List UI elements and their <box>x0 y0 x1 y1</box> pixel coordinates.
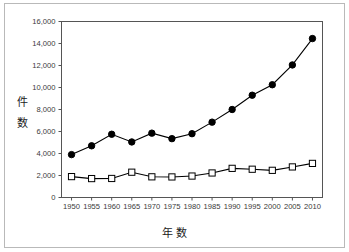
x-axis-ticks: 1950195519601965197019751980198519901995… <box>63 198 321 212</box>
data-point-marker <box>169 174 175 180</box>
data-point-marker <box>108 131 114 137</box>
data-point-marker <box>189 173 195 179</box>
y-tick-label: 12,000 <box>32 61 55 70</box>
data-point-marker <box>169 135 175 141</box>
data-point-marker <box>149 174 155 180</box>
data-point-marker <box>309 35 315 41</box>
y-axis-title-char-2: 数 <box>14 113 30 134</box>
y-tick-label: 4,000 <box>36 149 55 158</box>
data-point-marker <box>289 164 295 170</box>
data-point-marker <box>249 166 255 172</box>
data-point-marker <box>209 170 215 176</box>
data-point-marker <box>149 130 155 136</box>
data-point-marker <box>289 62 295 68</box>
y-axis-title-char-1: 件 <box>14 92 30 113</box>
y-tick-label: 6,000 <box>36 127 55 136</box>
data-point-marker <box>309 160 315 166</box>
data-point-marker <box>189 131 195 137</box>
data-point-marker <box>269 167 275 173</box>
plot-frame <box>62 22 323 198</box>
data-point-marker <box>68 174 74 180</box>
data-point-marker <box>68 151 74 157</box>
y-tick-label: 2,000 <box>36 171 55 180</box>
data-point-marker <box>88 143 94 149</box>
data-point-marker <box>89 175 95 181</box>
x-tick-label: 1995 <box>244 202 261 211</box>
y-tick-label: 10,000 <box>32 83 55 92</box>
data-point-marker <box>229 106 235 112</box>
x-tick-label: 1975 <box>163 202 180 211</box>
x-tick-label: 1950 <box>63 202 80 211</box>
data-point-marker <box>249 92 255 98</box>
y-axis-title: 件 数 <box>14 92 30 134</box>
data-point-marker <box>109 175 115 181</box>
x-tick-label: 1990 <box>224 202 241 211</box>
x-tick-label: 1960 <box>103 202 120 211</box>
x-tick-label: 2000 <box>264 202 281 211</box>
x-tick-label: 1965 <box>123 202 140 211</box>
x-tick-label: 1955 <box>83 202 100 211</box>
y-tick-label: 14,000 <box>32 39 55 48</box>
y-tick-label: 16,000 <box>32 17 55 26</box>
x-axis-title-text: 年 数 <box>162 224 187 240</box>
y-tick-label: 0 <box>51 193 55 202</box>
data-point-marker <box>269 82 275 88</box>
chart-svg: 02,0004,0006,0008,00010,00012,00014,0001… <box>0 0 349 252</box>
x-tick-label: 1980 <box>184 202 201 211</box>
data-point-marker <box>229 165 235 171</box>
x-tick-label: 1970 <box>143 202 160 211</box>
y-axis-ticks: 02,0004,0006,0008,00010,00012,00014,0001… <box>32 17 61 202</box>
data-point-marker <box>129 169 135 175</box>
line-chart: 02,0004,0006,0008,00010,00012,00014,0001… <box>0 0 349 252</box>
chart-page: 02,0004,0006,0008,00010,00012,00014,0001… <box>0 0 349 252</box>
y-tick-label: 8,000 <box>36 105 55 114</box>
data-point-marker <box>129 139 135 145</box>
x-axis-title: 年 数 <box>0 224 349 240</box>
x-tick-label: 1985 <box>204 202 221 211</box>
x-tick-label: 2005 <box>284 202 301 211</box>
x-tick-label: 2010 <box>304 202 321 211</box>
data-point-marker <box>209 119 215 125</box>
plot-area-border <box>62 22 323 198</box>
